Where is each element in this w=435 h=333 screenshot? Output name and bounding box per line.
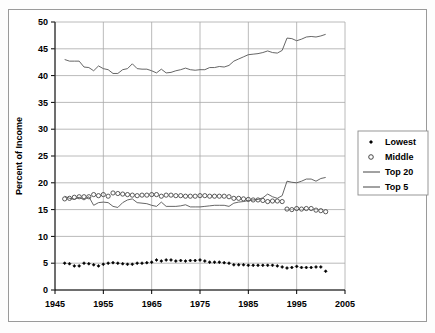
line-chart: 0510152025303540455019451955196519751985… bbox=[0, 0, 435, 333]
y-tick-label: 0 bbox=[43, 285, 48, 295]
y-tick-label: 10 bbox=[38, 232, 48, 242]
y-tick-label: 50 bbox=[38, 17, 48, 27]
x-tick-label: 1945 bbox=[45, 299, 65, 309]
screenshot-frame: 0510152025303540455019451955196519751985… bbox=[0, 0, 435, 333]
x-tick-label: 1975 bbox=[190, 299, 210, 309]
y-tick-label: 40 bbox=[38, 71, 48, 81]
y-axis-title: Percent of Income bbox=[14, 117, 24, 195]
x-tick-label: 2005 bbox=[335, 299, 355, 309]
x-tick-label: 1965 bbox=[142, 299, 162, 309]
legend-label: Middle bbox=[385, 152, 414, 162]
x-tick-label: 1985 bbox=[238, 299, 258, 309]
x-tick-label: 1995 bbox=[287, 299, 307, 309]
y-tick-label: 35 bbox=[38, 98, 48, 108]
legend-label: Lowest bbox=[385, 137, 416, 147]
y-tick-label: 25 bbox=[38, 151, 48, 161]
y-tick-label: 5 bbox=[43, 258, 48, 268]
chart-svg: 0510152025303540455019451955196519751985… bbox=[0, 0, 435, 333]
y-tick-label: 45 bbox=[38, 44, 48, 54]
y-tick-label: 30 bbox=[38, 124, 48, 134]
legend-label: Top 5 bbox=[385, 182, 408, 192]
legend-label: Top 20 bbox=[385, 167, 413, 177]
y-tick-label: 15 bbox=[38, 205, 48, 215]
y-tick-label: 20 bbox=[38, 178, 48, 188]
x-tick-label: 1955 bbox=[93, 299, 113, 309]
